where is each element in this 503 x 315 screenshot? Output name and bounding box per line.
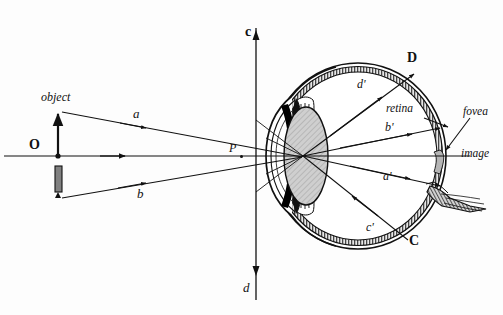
ray-d-prime-label: d' [357,78,366,90]
retina-point-d-label: D [407,51,417,65]
ray-d-label: d [243,281,250,294]
ray-c-label: c [245,25,251,39]
fovea-label: fovea [463,106,488,118]
nodal-point-dot [240,155,243,158]
fovea-leader [446,118,470,150]
nodal-point-label: P [229,142,236,154]
image-label: image [461,148,489,160]
ray-a-label: a [133,107,140,120]
ray-d-arrowhead [253,266,260,276]
ray-b-prime-label: b' [385,121,394,133]
ray-a-prime-label: a' [383,170,392,182]
retina-label: retina [386,103,413,115]
retina-point-c-label: C [409,234,419,248]
diagram-canvas [0,0,503,315]
eye-optics-diagram: object O P a b c d d' b' a' c' D C retin… [0,0,503,315]
object-label: object [41,91,70,103]
ray-b-label: b [137,187,144,200]
ray-c-arrowhead [253,30,260,40]
ray-a-arrowhead-seg [120,123,146,128]
ray-c-prime-label: c' [366,221,374,233]
origin-label: O [29,138,40,152]
ray-a [62,112,302,157]
ray-b [62,157,302,198]
